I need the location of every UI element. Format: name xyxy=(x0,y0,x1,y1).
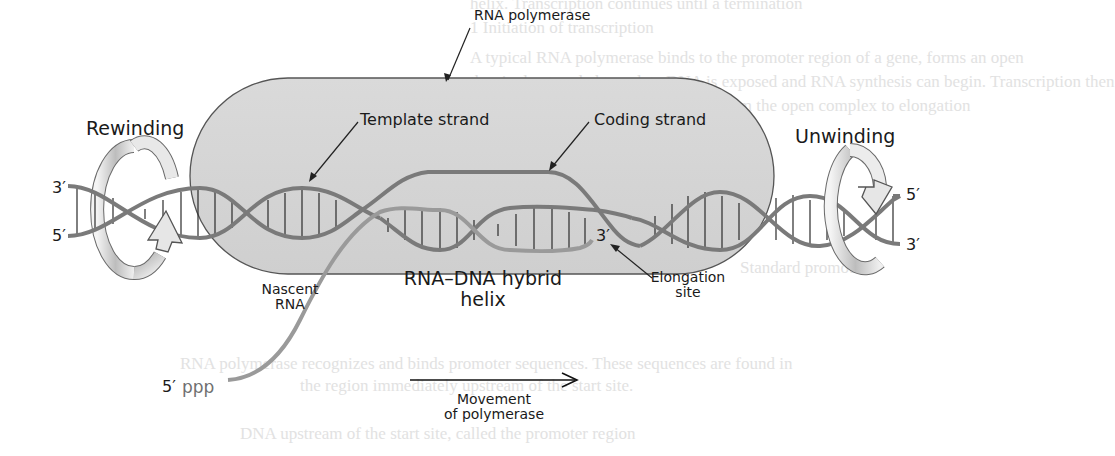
nascent-rna-label-line2: RNA xyxy=(252,297,328,312)
hybrid-helix-label-line1: RNA–DNA hybrid xyxy=(388,268,578,289)
nascent-rna-label: Nascent RNA xyxy=(252,282,328,313)
right-3prime-label: 3′ xyxy=(906,236,920,254)
rna-polymerase-label: RNA polymerase xyxy=(474,8,590,23)
hybrid-helix-label: RNA–DNA hybrid helix xyxy=(388,268,578,310)
elongation-site-label-line1: Elongation xyxy=(646,270,730,285)
nascent-rna-label-line1: Nascent xyxy=(252,282,328,297)
pointer-line xyxy=(448,28,470,80)
right-5prime-label: 5′ xyxy=(906,186,920,204)
movement-label-line1: Movement xyxy=(424,392,564,407)
hybrid-helix-label-line2: helix xyxy=(388,289,578,310)
movement-label-line2: of polymerase xyxy=(424,407,564,422)
left-5prime-label: 5′ xyxy=(52,227,66,245)
template-strand-label: Template strand xyxy=(360,111,489,129)
left-3prime-label: 3′ xyxy=(52,179,66,197)
coding-strand-label: Coding strand xyxy=(594,111,706,129)
movement-arrow-icon xyxy=(410,373,577,387)
rna-5prime-label: 5′ xyxy=(162,378,176,396)
elongation-site-label: Elongation site xyxy=(646,270,730,301)
movement-label: Movement of polymerase xyxy=(424,392,564,423)
elongation-site-label-line2: site xyxy=(646,285,730,300)
rewinding-label: Rewinding xyxy=(86,118,184,139)
unwinding-label: Unwinding xyxy=(795,126,895,147)
rna-3prime-label: 3′ xyxy=(596,227,610,245)
ppp-label: ppp xyxy=(182,378,214,397)
